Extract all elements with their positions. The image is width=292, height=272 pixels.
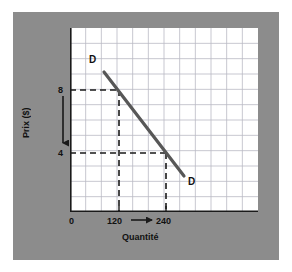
y-tick-label-8: 8 bbox=[58, 85, 63, 95]
plot-graphics bbox=[70, 28, 258, 212]
x-axis-title: Quantité bbox=[122, 232, 159, 242]
x-tick-label-120: 120 bbox=[107, 216, 122, 226]
x-tick-label-240: 240 bbox=[156, 216, 171, 226]
x-tick-label-0: 0 bbox=[69, 216, 74, 226]
demand-label-top: D bbox=[89, 54, 96, 65]
y-tick-label-4: 4 bbox=[58, 148, 63, 158]
y-axis-title: Prix ($) bbox=[21, 94, 35, 152]
plot-area bbox=[70, 28, 258, 212]
demand-label-bottom: D bbox=[188, 176, 195, 187]
demand-curve-figure: 8 4 0 120 240 D D Prix ($) Quantité bbox=[0, 0, 292, 272]
